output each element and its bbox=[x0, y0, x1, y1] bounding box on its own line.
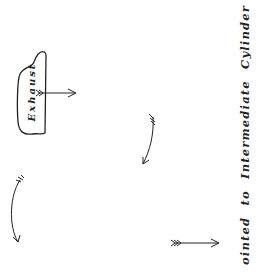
caption-text: ointed to Intermediate Cylinder bbox=[238, 5, 252, 265]
diagram-canvas: Exhaust ointed to Intermediate Cylinder bbox=[0, 0, 264, 273]
bottom-straight-arrow bbox=[171, 239, 219, 247]
middle-curved-arrow bbox=[143, 114, 155, 164]
diagram-drawing bbox=[0, 0, 264, 273]
left-curved-arrow bbox=[11, 175, 24, 242]
exhaust-outflow-arrow bbox=[36, 89, 76, 97]
exhaust-label: Exhaust bbox=[26, 63, 37, 122]
